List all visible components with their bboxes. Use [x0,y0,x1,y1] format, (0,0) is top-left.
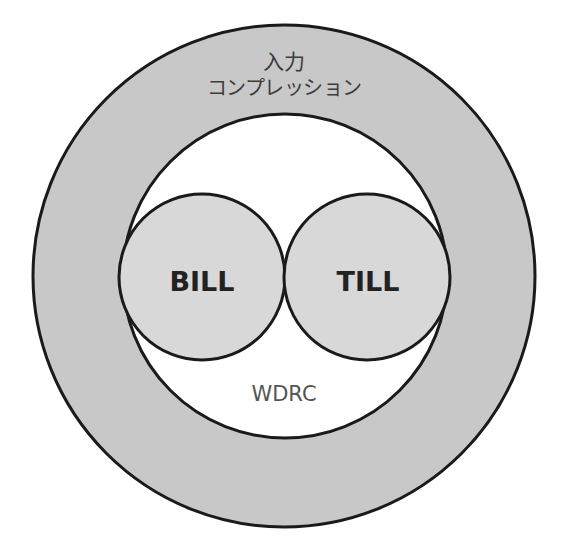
wdrc-label: WDRC [234,384,334,405]
till-label: TILL [318,268,418,295]
compression-diagram: 入力 コンプレッション BILL TILL WDRC [0,0,562,552]
outer-ring-label-line1: 入力 [184,52,384,73]
bill-label: BILL [152,268,252,295]
outer-ring-label-line2: コンプレッション [184,78,384,98]
